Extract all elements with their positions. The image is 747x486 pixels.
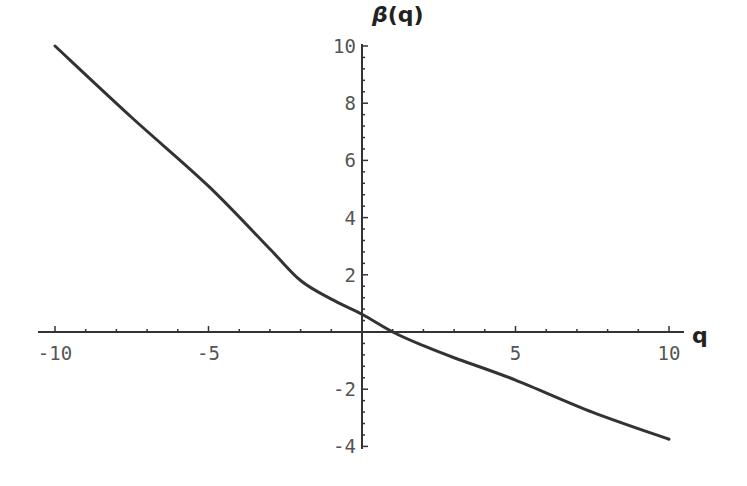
x-tick-label: -10 bbox=[38, 342, 72, 364]
axes: -10-5510 -4-2246810 bbox=[38, 35, 684, 457]
y-tick-label: 10 bbox=[333, 35, 356, 57]
y-tick-label: -4 bbox=[333, 435, 356, 457]
y-tick-label: 6 bbox=[345, 149, 356, 171]
x-axis-label: q bbox=[692, 323, 708, 348]
x-tick-label: -5 bbox=[197, 342, 220, 364]
y-tick-labels: -4-2246810 bbox=[333, 35, 356, 457]
y-axis-label-arg: (q) bbox=[388, 2, 424, 27]
y-tick-label: 4 bbox=[345, 207, 356, 229]
y-tick-label: 8 bbox=[345, 92, 356, 114]
chart: -10-5510 -4-2246810 q β(q) bbox=[0, 0, 747, 486]
x-tick-label: 10 bbox=[658, 342, 681, 364]
y-tick-label: -2 bbox=[333, 378, 356, 400]
y-tick-label: 2 bbox=[345, 264, 356, 286]
y-axis-label-beta: β bbox=[371, 2, 388, 27]
x-tick-label: 5 bbox=[510, 342, 521, 364]
y-axis-label: β(q) bbox=[371, 2, 424, 27]
x-tick-labels: -10-5510 bbox=[38, 342, 681, 364]
